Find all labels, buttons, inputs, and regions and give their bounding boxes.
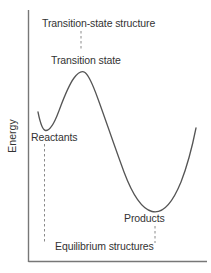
annotation-transition-state: Transition state (51, 54, 121, 66)
annotation-equilibrium-structures: Equilibrium structures (55, 240, 154, 252)
annotation-products: Products (124, 212, 165, 224)
y-axis-label: Energy (6, 111, 18, 161)
annotation-transition-state-structure: Transition-state structure (42, 17, 155, 29)
energy-diagram-figure: Transition-state structure Transition st… (0, 0, 211, 273)
annotation-reactants: Reactants (31, 131, 77, 143)
